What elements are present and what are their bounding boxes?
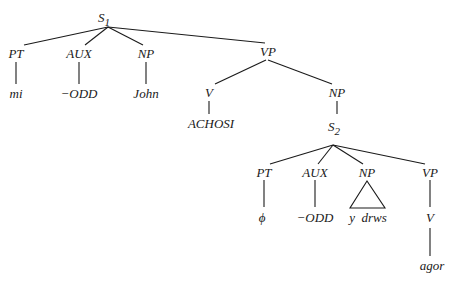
node-v: V	[205, 85, 215, 100]
leaf-mi: mi	[10, 86, 23, 101]
leaf-odd: −ODD	[61, 86, 99, 101]
edge-s1-vp	[108, 27, 265, 43]
leaf-phi: ϕ	[259, 210, 266, 225]
edge-s2-vp	[333, 145, 425, 164]
leaf-john: John	[133, 86, 158, 101]
edge-vp-v	[215, 60, 266, 84]
node-np-2: NP	[358, 165, 376, 180]
node-aux-2: AUX	[301, 165, 328, 180]
node-v-2: V	[426, 210, 436, 225]
edge-s2-aux	[318, 145, 333, 164]
leaf-achosi: ACHOSI	[187, 116, 235, 131]
leaf-y-drws: y drws	[347, 210, 387, 225]
node-np-vp: NP	[328, 85, 346, 100]
edge-vp-np	[268, 60, 332, 84]
node-vp-2: VP	[422, 165, 438, 180]
edge-s2-pt	[270, 145, 333, 164]
leaf-agor: agor	[420, 258, 446, 273]
node-pt-2: PT	[255, 165, 272, 180]
node-s2: S2	[328, 119, 341, 137]
syntax-tree-diagram: S1 PT AUX NP VP mi −ODD John V NP ACHOSI…	[0, 0, 452, 283]
node-np: NP	[137, 46, 155, 61]
node-vp: VP	[260, 44, 276, 59]
leaf-odd-2: −ODD	[297, 210, 335, 225]
node-s1: S1	[98, 10, 110, 28]
node-aux: AUX	[65, 46, 92, 61]
node-pt: PT	[7, 46, 24, 61]
edge-s1-pt	[24, 27, 108, 45]
np-triangle-icon	[350, 181, 385, 208]
